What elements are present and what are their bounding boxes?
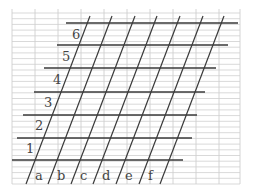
- oblique-grid-diagram: 654321 abcdef: [0, 0, 254, 192]
- column-label: d: [102, 168, 110, 183]
- row-label: 5: [62, 49, 70, 64]
- column-label: c: [80, 168, 87, 183]
- column-label: b: [57, 168, 65, 183]
- column-label: e: [125, 168, 133, 183]
- row-label: 6: [72, 27, 80, 42]
- row-label: 3: [44, 95, 52, 110]
- row-label: 4: [53, 72, 61, 87]
- row-label: 1: [26, 141, 34, 156]
- column-label: a: [35, 168, 43, 183]
- column-label: f: [148, 168, 154, 183]
- row-label: 2: [35, 118, 43, 133]
